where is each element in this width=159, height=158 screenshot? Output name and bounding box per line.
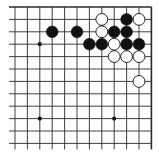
black-stone bbox=[121, 38, 133, 50]
star-point bbox=[38, 42, 42, 46]
black-stone bbox=[46, 26, 58, 38]
go-board bbox=[0, 0, 159, 158]
star-point bbox=[38, 117, 42, 121]
black-stone bbox=[84, 38, 96, 50]
black-stone bbox=[121, 26, 133, 38]
white-stone bbox=[96, 14, 108, 26]
white-stone bbox=[133, 76, 145, 88]
white-stone bbox=[108, 51, 120, 63]
black-stone bbox=[96, 38, 108, 50]
stones bbox=[46, 14, 145, 88]
white-stone bbox=[133, 51, 145, 63]
black-stone bbox=[133, 38, 145, 50]
black-stone bbox=[108, 26, 120, 38]
black-stone bbox=[121, 14, 133, 26]
black-stone bbox=[71, 26, 83, 38]
white-stone bbox=[96, 26, 108, 38]
white-stone bbox=[108, 38, 120, 50]
white-stone bbox=[121, 51, 133, 63]
white-stone bbox=[133, 14, 145, 26]
star-point bbox=[112, 117, 116, 121]
